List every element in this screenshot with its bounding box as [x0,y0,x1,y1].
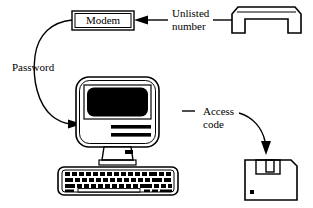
drive-slot-1 [111,125,151,129]
floppy-disk-icon[interactable] [245,160,297,200]
security-diagram: Modem Unlisted number Password [0,0,313,208]
modem-label: Modem [86,14,121,26]
drive-slot-2 [111,133,151,137]
access-code-line-1: Access [203,105,234,117]
access-code-connector [182,111,271,155]
unlisted-number-line-1: Unlisted [172,7,210,19]
unlisted-number-annotation: Unlisted number [172,7,210,32]
keyboard-icon[interactable] [58,167,178,195]
access-code-annotation: Access code [203,105,234,130]
password-label: Password [12,61,55,73]
password-connector [34,20,82,129]
desktop-computer-icon[interactable] [76,77,159,165]
password-annotation: Password [12,61,55,73]
pedestal-port [125,150,133,154]
computer-screen [87,88,148,117]
floppy-write-protect-tab [250,190,254,194]
arrowhead-down [261,141,271,155]
computer-base [99,160,136,165]
unlisted-number-line-2: number [172,20,206,32]
diagram-canvas: Modem Unlisted number Password [0,0,313,208]
access-code-line-2: code [203,118,224,130]
keyboard-row-1 [65,172,171,176]
arrowhead-left [134,16,148,25]
modem-node[interactable]: Modem [72,11,134,30]
telephone-handset-icon [232,7,301,33]
